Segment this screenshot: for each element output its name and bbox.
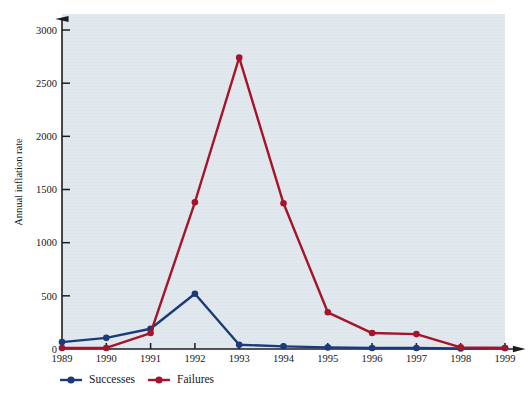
data-point-successes-1992 <box>192 290 199 297</box>
y-axis-title: Annual inflation rate <box>13 138 24 226</box>
data-point-failures-1990 <box>103 345 110 352</box>
data-point-failures-1996 <box>369 330 376 337</box>
x-tick-label: 1991 <box>140 353 161 364</box>
data-point-successes-1996 <box>369 345 376 352</box>
data-point-successes-1995 <box>325 344 332 351</box>
x-tick-label: 1990 <box>96 353 117 364</box>
data-point-successes-1993 <box>236 341 243 348</box>
y-tick-label: 3000 <box>36 25 57 36</box>
legend-label: Successes <box>89 373 136 385</box>
legend-item-failures[interactable]: Failures <box>148 373 215 385</box>
x-tick-label: 1989 <box>52 353 73 364</box>
x-tick-label: 1994 <box>273 353 295 364</box>
legend-marker-icon <box>67 376 74 383</box>
chart-legend: SuccessesFailures <box>60 373 215 385</box>
data-series-group <box>59 54 509 351</box>
legend-marker-icon <box>155 376 162 383</box>
data-point-failures-1997 <box>413 331 420 338</box>
data-point-successes-1994 <box>280 343 287 350</box>
x-tick-label: 1997 <box>406 353 427 364</box>
y-tick-label: 2000 <box>36 131 57 142</box>
y-tick-label: 2500 <box>36 78 57 89</box>
data-point-failures-1994 <box>280 200 287 207</box>
y-tick-label: 1000 <box>36 237 57 248</box>
y-axis: 050010001500200025003000 Annual inflatio… <box>13 19 70 355</box>
x-tick-label: 1995 <box>317 353 338 364</box>
x-tick-label: 1992 <box>184 353 205 364</box>
y-tick-group: 050010001500200025003000 <box>36 25 70 355</box>
legend-label: Failures <box>177 373 215 385</box>
data-point-failures-1991 <box>147 330 154 337</box>
data-point-successes-1989 <box>59 339 66 346</box>
data-point-failures-1992 <box>192 199 199 206</box>
data-point-failures-1995 <box>325 309 332 316</box>
x-tick-label: 1993 <box>229 353 250 364</box>
data-point-failures-1989 <box>59 345 66 352</box>
data-point-failures-1993 <box>236 54 243 61</box>
chart-canvas: 050010001500200025003000 Annual inflatio… <box>0 0 529 397</box>
x-tick-label: 1998 <box>450 353 471 364</box>
inflation-line-chart: 050010001500200025003000 Annual inflatio… <box>0 0 529 397</box>
data-point-successes-1990 <box>103 335 110 342</box>
x-tick-label: 1999 <box>495 353 516 364</box>
x-tick-label: 1996 <box>362 353 383 364</box>
y-tick-label: 500 <box>41 291 57 302</box>
data-point-successes-1997 <box>413 345 420 352</box>
legend-item-successes[interactable]: Successes <box>60 373 136 385</box>
data-point-failures-1999 <box>502 345 509 352</box>
data-point-failures-1998 <box>457 344 464 351</box>
y-tick-label: 1500 <box>36 184 57 195</box>
